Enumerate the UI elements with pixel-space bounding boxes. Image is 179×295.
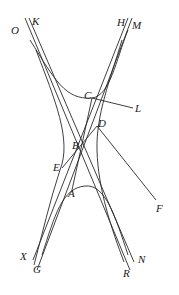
line-C-L: [92, 98, 133, 108]
label-R: R: [122, 267, 130, 279]
label-E: E: [52, 161, 60, 173]
label-M: M: [131, 19, 142, 31]
diagram-figure: O K H M C L D F B E A X G N R: [0, 0, 179, 295]
line-E-D: [62, 126, 97, 168]
label-H: H: [116, 16, 126, 28]
label-G: G: [33, 263, 41, 275]
line-D-F: [97, 126, 156, 200]
hyperbola-upper-branch: [30, 30, 128, 98]
label-A: A: [67, 187, 75, 199]
label-F: F: [155, 202, 163, 214]
label-K: K: [31, 15, 40, 27]
line-M-G: [37, 18, 132, 270]
line-H-X: [33, 18, 128, 260]
label-N: N: [137, 253, 146, 265]
label-O: O: [11, 24, 19, 36]
label-C: C: [84, 89, 92, 101]
label-L: L: [134, 102, 141, 114]
label-D: D: [97, 117, 106, 129]
label-B: B: [72, 139, 79, 151]
label-X: X: [19, 250, 28, 262]
hyperbola-lower-branch: [42, 186, 128, 255]
